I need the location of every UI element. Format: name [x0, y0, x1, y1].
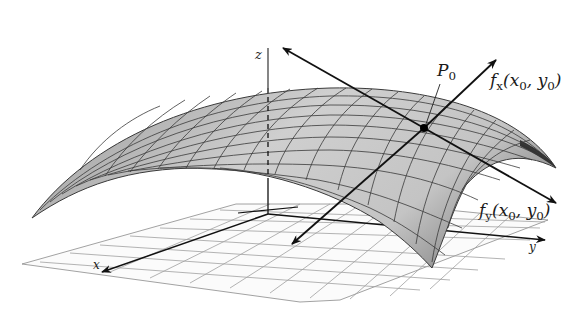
fy-args-open: (x	[492, 200, 508, 220]
fx-args-mid: , y	[527, 70, 547, 90]
fy-args-close: )	[544, 200, 551, 220]
diagram-canvas: z x y P0 fx(x0, y0) fy(x0, y0)	[0, 0, 588, 323]
fx-args-open: (x	[503, 70, 519, 90]
fy-label: fy(x0, y0)	[479, 200, 550, 223]
fx-subscript: x	[496, 79, 503, 93]
fy-args-sub2: 0	[536, 209, 544, 223]
point-name: P	[437, 60, 448, 80]
point-p0-label: P0	[437, 60, 456, 83]
fx-args-sub2: 0	[547, 79, 555, 93]
point-subscript: 0	[448, 69, 456, 83]
fy-args-sub1: 0	[508, 209, 516, 223]
fy-subscript: y	[485, 209, 492, 223]
point-p0	[420, 124, 428, 132]
surface-diagram	[0, 0, 588, 323]
z-axis-label: z	[255, 47, 262, 62]
x-axis-label: x	[93, 258, 100, 272]
fx-label: fx(x0, y0)	[490, 70, 561, 93]
fy-args-mid: , y	[516, 200, 536, 220]
xy-plane-grid	[22, 204, 548, 302]
fx-args-close: )	[555, 70, 562, 90]
y-axis-label: y	[529, 240, 536, 254]
fx-args-sub1: 0	[519, 79, 527, 93]
